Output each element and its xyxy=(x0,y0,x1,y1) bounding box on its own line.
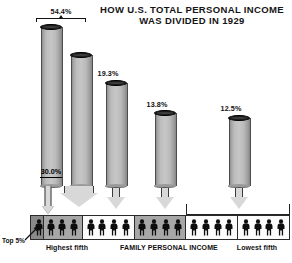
person-icon xyxy=(70,219,78,236)
person-icon xyxy=(138,219,146,236)
caption-family-personal-income: FAMILY PERSONAL INCOME xyxy=(114,244,224,251)
bar-5-label: 12.5% xyxy=(206,104,256,113)
bracket-bottom-end-left xyxy=(186,204,187,215)
arrow-2 xyxy=(60,186,98,212)
person-icon xyxy=(242,219,250,236)
bracket-bottom xyxy=(186,203,290,215)
person-icon xyxy=(265,219,273,236)
bracket-bottom-end-right xyxy=(289,204,290,215)
person-icon xyxy=(47,219,55,236)
top5-callout-label: Top 5% xyxy=(2,237,25,244)
person-icon xyxy=(98,219,106,236)
person-icon xyxy=(225,219,233,236)
bar-4-body xyxy=(155,113,177,186)
person-icon xyxy=(214,219,222,236)
arrow-3-head xyxy=(107,197,125,209)
person-icon xyxy=(174,219,182,236)
person-icon xyxy=(110,219,118,236)
infographic-canvas: HOW U.S. TOTAL PERSONAL INCOME WAS DIVID… xyxy=(0,0,292,263)
person-icon xyxy=(150,219,158,236)
bracket-line xyxy=(36,18,86,19)
arrow-4-head xyxy=(156,197,174,209)
person-icon xyxy=(122,219,130,236)
pictogram-cell-1[interactable] xyxy=(31,216,83,239)
chart-title-line2: WAS DIVIDED IN 1929 xyxy=(96,15,288,26)
pictogram-cell-3[interactable] xyxy=(135,216,187,239)
bracket-tick-left xyxy=(36,18,37,22)
person-icon xyxy=(162,219,170,236)
bar-1-inner-rule xyxy=(40,177,62,178)
bar-1-body xyxy=(41,27,63,186)
bar-1-inner-label: 30.0% xyxy=(40,167,62,178)
pictogram-cell-4[interactable] xyxy=(186,216,238,239)
bar-4 xyxy=(155,113,175,186)
arrow-1 xyxy=(42,186,54,214)
person-icon xyxy=(58,219,66,236)
arrow-1-shaft xyxy=(45,186,52,207)
person-icon xyxy=(190,219,198,236)
bar-3 xyxy=(106,83,126,186)
pictogram-cell-5[interactable] xyxy=(238,216,289,239)
caption-lowest-fifth: Lowest fifth xyxy=(226,244,288,251)
pictogram-row xyxy=(30,215,290,240)
bar-4-label: 13.8% xyxy=(132,100,182,109)
bracket-nib xyxy=(59,15,63,18)
bar-1-inner-label-text: 30.0% xyxy=(41,167,61,176)
bar-3-label: 19.3% xyxy=(83,69,133,78)
person-icon xyxy=(254,219,262,236)
chart-title-line1: HOW U.S. TOTAL PERSONAL INCOME xyxy=(96,4,288,15)
bracket-top xyxy=(36,14,86,23)
arrow-3 xyxy=(107,188,125,212)
bar-5 xyxy=(229,118,249,186)
bar-1 xyxy=(41,27,61,186)
arrow-1-head xyxy=(42,206,54,214)
bar-3-body xyxy=(106,83,128,186)
person-icon xyxy=(87,219,95,236)
bracket-tick-right xyxy=(85,18,86,22)
bar-5-body xyxy=(229,118,251,186)
chart-title: HOW U.S. TOTAL PERSONAL INCOME WAS DIVID… xyxy=(96,4,288,26)
arrow-2-head xyxy=(60,193,98,207)
person-icon xyxy=(35,219,43,236)
arrow-4 xyxy=(156,188,174,212)
person-icon xyxy=(202,219,210,236)
person-icon xyxy=(277,219,285,236)
caption-highest-fifth: Highest fifth xyxy=(33,244,101,251)
pictogram-cell-2[interactable] xyxy=(83,216,135,239)
